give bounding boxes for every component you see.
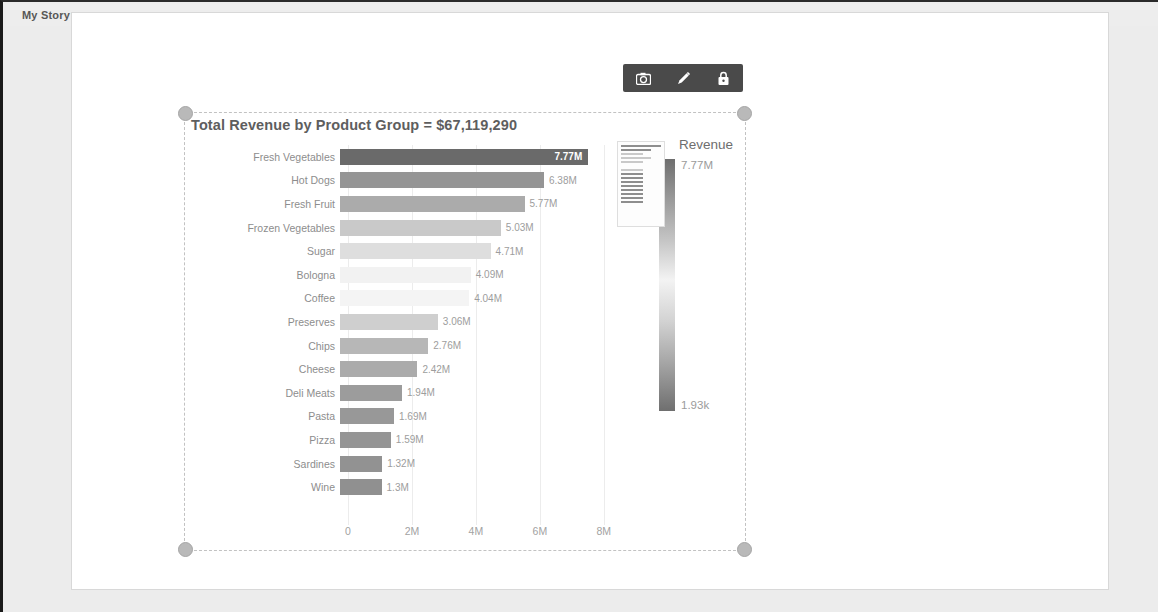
- bar-value-label: 5.03M: [506, 222, 534, 233]
- camera-icon: [636, 72, 651, 85]
- bar[interactable]: [340, 361, 417, 377]
- bar-category-label: Sugar: [193, 245, 340, 257]
- bar-track: 1.94M: [340, 381, 623, 405]
- bar-chart-plot-area[interactable]: Fresh Vegetables7.77MHot Dogs6.38MFresh …: [193, 145, 623, 525]
- bar-track: 1.59M: [340, 428, 623, 452]
- bar-track: 4.04M: [340, 287, 623, 311]
- story-tab-my-story[interactable]: My Story: [14, 6, 78, 24]
- x-axis-tick-label: 2M: [405, 525, 420, 537]
- bar-category-label: Frozen Vegetables: [193, 222, 340, 234]
- bar-value-label: 7.77M: [554, 151, 582, 162]
- bar-track: 1.32M: [340, 452, 623, 476]
- bar-row[interactable]: Hot Dogs6.38M: [193, 169, 623, 193]
- bar[interactable]: [340, 385, 402, 401]
- bar[interactable]: [340, 149, 588, 165]
- bar-row[interactable]: Preserves3.06M: [193, 310, 623, 334]
- bar-track: 1.69M: [340, 405, 623, 429]
- x-axis-tick-label: 8M: [597, 525, 612, 537]
- bar[interactable]: [340, 267, 471, 283]
- bar-value-label: 3.06M: [443, 316, 471, 327]
- bar-value-label: 5.77M: [530, 198, 558, 209]
- bar-track: 6.38M: [340, 169, 623, 193]
- camera-button[interactable]: [628, 67, 658, 89]
- bar[interactable]: [340, 408, 394, 424]
- widget-action-toolbar: [623, 64, 743, 92]
- legend-max-value: 7.77M: [681, 159, 713, 171]
- bar-category-label: Pizza: [193, 434, 340, 446]
- bar-category-label: Coffee: [193, 292, 340, 304]
- bar-track: 5.03M: [340, 216, 623, 240]
- bar[interactable]: [340, 172, 544, 188]
- legend-title: Revenue: [679, 137, 745, 152]
- bar-value-label: 1.59M: [396, 434, 424, 445]
- bar-category-label: Fresh Fruit: [193, 198, 340, 210]
- bar-row[interactable]: Sardines1.32M: [193, 452, 623, 476]
- bar-track: 7.77M: [340, 145, 623, 169]
- legend-min-value: 1.93k: [681, 399, 709, 411]
- bar-value-label: 1.69M: [399, 411, 427, 422]
- chart-widget[interactable]: Total Revenue by Product Group = $67,119…: [184, 112, 746, 551]
- bar-category-label: Pasta: [193, 410, 340, 422]
- bar-row[interactable]: Wine1.3M: [193, 475, 623, 499]
- bar-value-label: 2.42M: [422, 364, 450, 375]
- bar-row[interactable]: Chips2.76M: [193, 334, 623, 358]
- bar-track: 2.76M: [340, 334, 623, 358]
- bar-row[interactable]: Cheese2.42M: [193, 357, 623, 381]
- bar[interactable]: [340, 479, 382, 495]
- bar[interactable]: [340, 314, 438, 330]
- bar-row[interactable]: Deli Meats1.94M: [193, 381, 623, 405]
- bar-value-label: 1.32M: [387, 458, 415, 469]
- bar-value-label: 1.3M: [387, 482, 409, 493]
- bar-value-label: 4.09M: [476, 269, 504, 280]
- bar-track: 3.06M: [340, 310, 623, 334]
- bar-value-label: 1.94M: [407, 387, 435, 398]
- bar-track: 5.77M: [340, 192, 623, 216]
- bar-category-label: Fresh Vegetables: [193, 151, 340, 163]
- bar-row[interactable]: Pasta1.69M: [193, 405, 623, 429]
- bar-category-label: Cheese: [193, 363, 340, 375]
- bar[interactable]: [340, 196, 525, 212]
- lock-button[interactable]: [708, 67, 738, 89]
- x-axis-tick-label: 6M: [533, 525, 548, 537]
- bar-track: 2.42M: [340, 357, 623, 381]
- bar[interactable]: [340, 220, 501, 236]
- resize-handle-bottom-right[interactable]: [737, 542, 752, 557]
- application-frame: My Story: [0, 0, 1158, 612]
- bar-value-label: 4.04M: [474, 293, 502, 304]
- bar[interactable]: [340, 338, 428, 354]
- pencil-icon: [676, 71, 691, 86]
- bar[interactable]: [340, 456, 382, 472]
- bar-category-label: Deli Meats: [193, 387, 340, 399]
- bar-category-label: Preserves: [193, 316, 340, 328]
- bar-category-label: Chips: [193, 340, 340, 352]
- bar-row[interactable]: Frozen Vegetables5.03M: [193, 216, 623, 240]
- bar-category-label: Bologna: [193, 269, 340, 281]
- bar-row[interactable]: Fresh Vegetables7.77M: [193, 145, 623, 169]
- bar[interactable]: [340, 432, 391, 448]
- bar-category-label: Sardines: [193, 458, 340, 470]
- bar-row[interactable]: Sugar4.71M: [193, 239, 623, 263]
- bar-category-label: Wine: [193, 481, 340, 493]
- x-axis-tick-label: 4M: [469, 525, 484, 537]
- story-canvas[interactable]: Total Revenue by Product Group = $67,119…: [71, 12, 1109, 590]
- bar-category-label: Hot Dogs: [193, 174, 340, 186]
- bar-track: 1.3M: [340, 475, 623, 499]
- bar-value-label: 6.38M: [549, 175, 577, 186]
- lock-icon: [717, 71, 730, 86]
- resize-handle-top-right[interactable]: [737, 106, 752, 121]
- bar-row[interactable]: Fresh Fruit5.77M: [193, 192, 623, 216]
- edit-button[interactable]: [668, 67, 698, 89]
- bar-track: 4.09M: [340, 263, 623, 287]
- bar-track: 4.71M: [340, 239, 623, 263]
- x-axis: 02M4M6M8M: [348, 525, 623, 543]
- bar-row[interactable]: Pizza1.59M: [193, 428, 623, 452]
- bar[interactable]: [340, 290, 469, 306]
- tooltip-preview-panel: [617, 141, 665, 227]
- bar-value-label: 2.76M: [433, 340, 461, 351]
- resize-handle-bottom-left[interactable]: [178, 542, 193, 557]
- bar[interactable]: [340, 243, 491, 259]
- chart-title: Total Revenue by Product Group = $67,119…: [191, 117, 517, 133]
- x-axis-tick-label: 0: [345, 525, 351, 537]
- bar-row[interactable]: Coffee4.04M: [193, 287, 623, 311]
- bar-row[interactable]: Bologna4.09M: [193, 263, 623, 287]
